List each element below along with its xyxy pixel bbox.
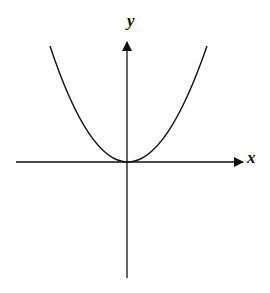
parabola-curve: [50, 46, 207, 162]
x-axis-label: x: [246, 148, 256, 167]
parabola-graph: y x: [0, 0, 270, 293]
y-axis-label: y: [125, 11, 135, 30]
